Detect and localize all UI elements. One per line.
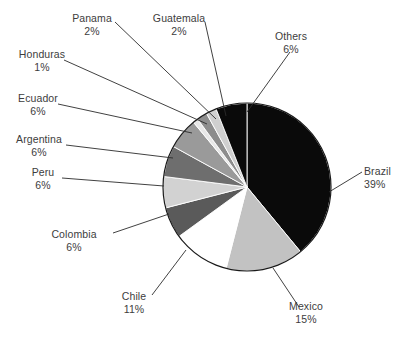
slice-label-chile-percent: 11% (108, 303, 160, 316)
slice-label-ecuador-name: Ecuador (6, 92, 70, 105)
slice-label-argentina-name: Argentina (4, 133, 74, 146)
pie-slices-group (163, 103, 331, 271)
leader-line-colombia (113, 214, 169, 233)
slice-label-ecuador: Ecuador 6% (6, 92, 70, 117)
slice-label-mexico-name: Mexico (274, 300, 338, 313)
leader-line-peru (62, 178, 164, 186)
slice-label-honduras-percent: 1% (8, 61, 76, 74)
slice-label-brazil-name: Brazil (364, 165, 402, 178)
slice-label-colombia-percent: 6% (36, 241, 112, 254)
slice-label-argentina: Argentina 6% (4, 133, 74, 158)
slice-label-chile-name: Chile (108, 290, 160, 303)
slice-label-others: Others 6% (258, 30, 324, 55)
slice-label-ecuador-percent: 6% (6, 105, 70, 118)
slice-label-panama-percent: 2% (56, 25, 128, 38)
slice-label-guatemala-name: Guatemala (140, 12, 218, 25)
slice-label-mexico-percent: 15% (274, 313, 338, 326)
leader-line-argentina (66, 145, 173, 158)
leader-line-chile (152, 250, 186, 295)
leader-line-honduras (64, 60, 207, 124)
slice-label-others-name: Others (258, 30, 324, 43)
slice-label-chile: Chile 11% (108, 290, 160, 315)
slice-label-honduras-name: Honduras (8, 48, 76, 61)
slice-label-colombia-name: Colombia (36, 228, 112, 241)
slice-label-panama-name: Panama (56, 12, 128, 25)
slice-label-panama: Panama 2% (56, 12, 128, 37)
pie-chart: Panama 2% Guatemala 2% Others 6% Hondura… (0, 0, 402, 337)
slice-label-peru-name: Peru (14, 166, 72, 179)
slice-label-argentina-percent: 6% (4, 146, 74, 159)
slice-label-peru-percent: 6% (14, 179, 72, 192)
leader-line-others (247, 52, 290, 112)
slice-label-peru: Peru 6% (14, 166, 72, 191)
slice-label-guatemala: Guatemala 2% (140, 12, 218, 37)
slice-label-honduras: Honduras 1% (8, 48, 76, 73)
slice-label-brazil-percent: 39% (364, 178, 402, 191)
slice-label-others-percent: 6% (258, 43, 324, 56)
leader-line-brazil (329, 172, 362, 192)
slice-label-mexico: Mexico 15% (274, 300, 338, 325)
slice-label-brazil: Brazil 39% (364, 165, 402, 190)
slice-label-colombia: Colombia 6% (36, 228, 112, 253)
slice-label-guatemala-percent: 2% (140, 25, 218, 38)
